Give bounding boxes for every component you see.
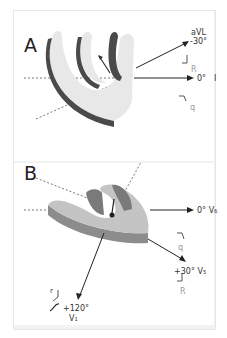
axis-v5-label: +30° V₅: [174, 267, 206, 276]
panel-a: A aVL -30° R 0° I q: [14, 11, 214, 161]
panel-b-diagram: [14, 163, 214, 325]
axis-v1-line: [80, 233, 104, 295]
dashed-vertical-line: [124, 163, 146, 193]
panel-b: B 0° V₆ q +30° V₅ R r +120° V₁: [14, 163, 214, 325]
axis-v1-arrowhead: [76, 293, 82, 300]
panel-a-diagram: [14, 11, 214, 161]
septal-vector-line: [112, 199, 114, 213]
axis-avl-angle: -30°: [190, 37, 207, 46]
axis-v1-angle: +120°: [63, 304, 89, 313]
axis-avl-line: [136, 43, 186, 68]
q-wave-glyph: [179, 96, 186, 101]
septal-arrowhead: [98, 55, 103, 60]
axis-v1-lead: V₁: [69, 314, 78, 323]
axis-i-lead: I: [214, 74, 216, 83]
axis-v6-arrowhead: [187, 207, 194, 213]
axis-i-angle: 0°: [197, 74, 206, 83]
axis-avl-lead: aVL: [191, 28, 206, 37]
axis-v5-line: [148, 239, 182, 259]
panel-b-label: B: [24, 163, 37, 183]
r-wave-label: R: [180, 287, 186, 296]
r-wave-glyph: [182, 55, 187, 63]
panel-a-label: A: [24, 35, 37, 55]
r-wave-label: R: [191, 65, 197, 74]
s-wave-glyph: [50, 304, 59, 311]
q-wave-label: q: [190, 103, 195, 112]
septum-slot: [86, 189, 104, 215]
q-wave-label: q: [178, 243, 183, 252]
axis-v5-arrowhead: [179, 255, 186, 262]
septal-vector-origin: [110, 213, 115, 218]
q-wave-glyph: [177, 233, 184, 239]
axis-v6-label: 0° V₆: [197, 206, 217, 215]
r-small-label: r: [50, 287, 53, 296]
axis-i-arrowhead: [187, 75, 194, 81]
rs-wave-glyph: [53, 290, 58, 301]
